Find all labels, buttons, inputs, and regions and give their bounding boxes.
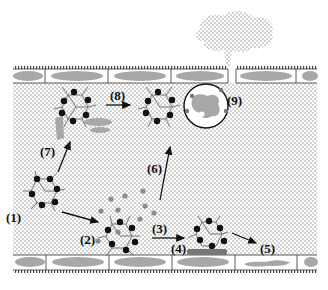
label-3: (3)	[152, 221, 167, 236]
label-1: (1)	[6, 210, 21, 225]
label-4: (4)	[171, 241, 186, 256]
vessel-diagram: (1) (2) (3) (4) (5) (6) (7) (8) (9)	[0, 0, 328, 290]
top-endothelium	[13, 66, 318, 83]
bottom-endothelium	[13, 255, 318, 273]
label-5: (5)	[260, 241, 275, 256]
label-9: (9)	[227, 93, 242, 108]
macrophage-cell	[184, 84, 228, 128]
label-8: (8)	[110, 88, 125, 103]
label-2: (2)	[80, 232, 95, 247]
adsorbed-protein-layer	[187, 249, 227, 255]
label-6: (6)	[147, 161, 162, 176]
label-7: (7)	[40, 144, 55, 159]
extravasation-cloud	[196, 11, 273, 66]
